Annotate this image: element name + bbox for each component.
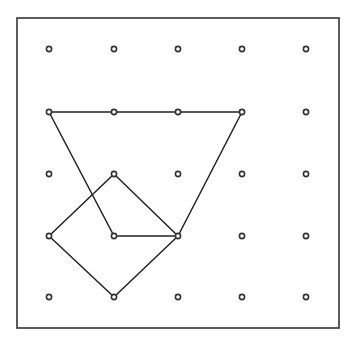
peg-dot-icon [175, 294, 180, 299]
peg-dot-icon [111, 294, 116, 299]
peg-dot-icon [303, 233, 308, 238]
peg-dot-icon [111, 46, 116, 51]
peg-dot-icon [239, 294, 244, 299]
peg-dot-icon [46, 233, 51, 238]
peg-dot-icon [175, 109, 180, 114]
shapes-layer [49, 112, 242, 297]
peg-dot-icon [46, 109, 51, 114]
peg-dot-icon [239, 46, 244, 51]
peg-dot-icon [111, 109, 116, 114]
geoboard-diagram [0, 0, 346, 342]
peg-dot-icon [303, 171, 308, 176]
peg-dot-icon [303, 294, 308, 299]
peg-dot-icon [111, 233, 116, 238]
peg-dot-icon [175, 46, 180, 51]
peg-dot-icon [175, 171, 180, 176]
peg-dot-icon [303, 109, 308, 114]
peg-dot-icon [175, 233, 180, 238]
peg-dot-icon [239, 233, 244, 238]
peg-dot-icon [303, 46, 308, 51]
peg-dot-icon [46, 294, 51, 299]
peg-dot-icon [46, 46, 51, 51]
peg-dot-icon [46, 171, 51, 176]
peg-dot-icon [111, 171, 116, 176]
peg-dot-icon [239, 109, 244, 114]
trapezoid-shape [49, 112, 242, 236]
peg-dot-icon [239, 171, 244, 176]
peg-grid [46, 46, 308, 299]
